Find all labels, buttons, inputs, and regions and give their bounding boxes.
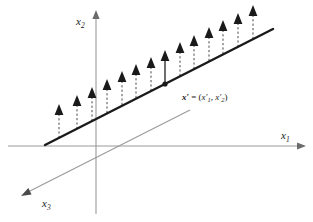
x-prime-point bbox=[162, 81, 167, 86]
vector-field-diagram: x1 x2 x3 bbox=[0, 0, 313, 222]
x-prime-label: x′ = (x′1, x′2) bbox=[181, 92, 228, 103]
